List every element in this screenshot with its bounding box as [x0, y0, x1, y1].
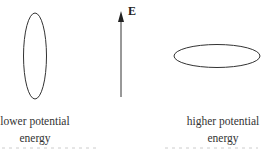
- left-caption: lower potential energy: [0, 113, 70, 147]
- field-label: E: [128, 4, 136, 19]
- horizontal-ellipse: [174, 45, 260, 68]
- right-caption-line1: higher potential: [178, 113, 263, 130]
- left-caption-line2: energy: [0, 130, 70, 147]
- electric-field-arrow-icon: [118, 11, 124, 97]
- right-caption: higher potential energy: [178, 113, 263, 147]
- dipole-energy-diagram: E lower potential energy higher potentia…: [0, 0, 263, 149]
- right-caption-line2: energy: [178, 130, 263, 147]
- left-caption-line1: lower potential: [0, 113, 70, 130]
- vertical-ellipse: [24, 13, 47, 99]
